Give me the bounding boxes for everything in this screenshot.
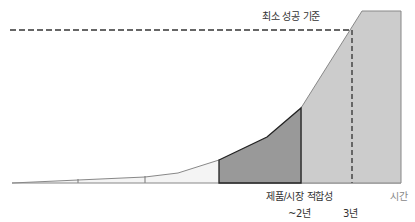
growth-curve-diagram [0, 0, 415, 222]
time-axis-label: 시간 [390, 188, 407, 203]
threshold-label: 최소 성공 기준 [262, 8, 320, 23]
pmf-label: 제품/시장 적합성 [266, 188, 333, 203]
early-stage-area [12, 160, 219, 183]
tick-label-2y: ~2년 [288, 205, 311, 220]
tick-label-3y: 3년 [343, 205, 358, 220]
pmf-area [219, 108, 301, 183]
